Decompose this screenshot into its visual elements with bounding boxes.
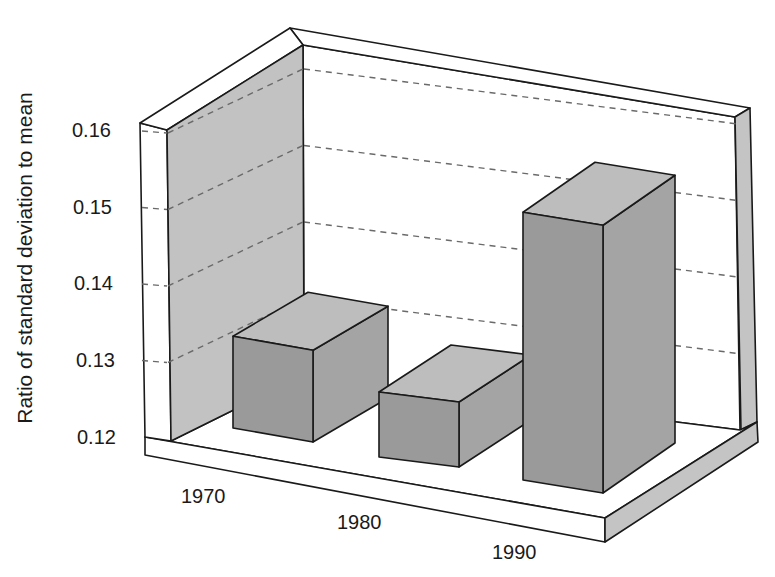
y-axis-title: Ratio of standard deviation to mean <box>13 92 37 424</box>
bar-1990 <box>523 162 675 493</box>
bar-front-face <box>523 212 603 493</box>
x-tick-label: 1980 <box>337 511 382 534</box>
y-tick-label: 0.14 <box>74 272 113 295</box>
y-tick-label: 0.12 <box>77 426 116 449</box>
y-tick-label: 0.16 <box>72 119 111 142</box>
y-tick-label: 0.13 <box>76 349 115 372</box>
bar-side-face <box>603 175 675 493</box>
x-tick-label: 1990 <box>492 541 537 564</box>
x-tick-label: 1970 <box>181 485 226 508</box>
bar-front-face <box>379 392 459 467</box>
bar-front-face <box>233 336 313 442</box>
chart-canvas <box>0 0 775 577</box>
y-tick-label: 0.15 <box>73 196 112 219</box>
